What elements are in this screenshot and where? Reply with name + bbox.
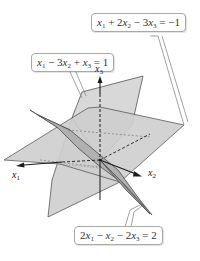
- intersection-point: [99, 159, 102, 162]
- eq3-term2-op: −: [94, 229, 106, 241]
- x1-arrowhead: [16, 163, 25, 168]
- eq1-term3-coef: − 3: [131, 16, 148, 28]
- plane-1: [4, 107, 184, 182]
- equation-callout-3: 2x1 − x2 − 2x3 = 2: [74, 226, 163, 245]
- eq3-rhs: = 2: [140, 229, 157, 241]
- x2-axis-label: x2: [148, 168, 156, 178]
- x1-label-sub: 1: [16, 174, 20, 182]
- x2-arrowhead: [133, 171, 142, 177]
- callout-2-leader: [70, 72, 82, 98]
- callout-1-leader-b: [162, 36, 188, 122]
- x2-label-sub: 2: [152, 172, 156, 180]
- eq1-term2-coef: + 2: [105, 16, 122, 28]
- x3-label-sub: 3: [99, 68, 103, 76]
- eq2-term3-op: +: [71, 56, 83, 68]
- callout-3-leader: [125, 205, 140, 227]
- callout-3-leader-b: [131, 206, 142, 227]
- callout-1-leader: [150, 36, 184, 125]
- eq3-term3-coef: − 2: [114, 229, 131, 241]
- equation-callout-1: x1 + 2x2 − 3x3 = −1: [91, 13, 186, 32]
- eq2-term2-coef: − 3: [45, 56, 62, 68]
- callout-2-leader-b: [76, 72, 86, 96]
- planes-figure: [0, 0, 200, 261]
- diagram-canvas: x1 + 2x2 − 3x3 = −1 x1 − 3x2 + x3 = 1 2x…: [0, 0, 200, 261]
- x3-arrowhead: [98, 76, 103, 83]
- x3-axis-label: x3: [95, 64, 103, 74]
- x1-axis-label: x1: [12, 170, 20, 180]
- eq1-rhs: = −1: [157, 16, 180, 28]
